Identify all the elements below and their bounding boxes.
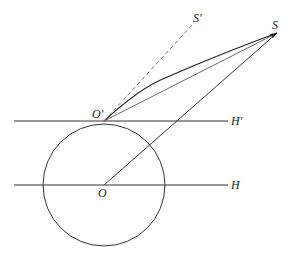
label-h-prime: H' (230, 114, 243, 128)
line-o-s (104, 33, 277, 185)
geometry-diagram: S' S O' H' H O (0, 0, 292, 258)
label-o-prime: O' (92, 107, 104, 121)
dashed-line-o-prime-s-prime (104, 24, 193, 121)
label-s-prime: S' (193, 11, 202, 25)
label-o: O (98, 186, 107, 200)
line-o-prime-s (104, 33, 277, 121)
label-s: S (272, 18, 278, 32)
label-h: H (230, 178, 241, 192)
